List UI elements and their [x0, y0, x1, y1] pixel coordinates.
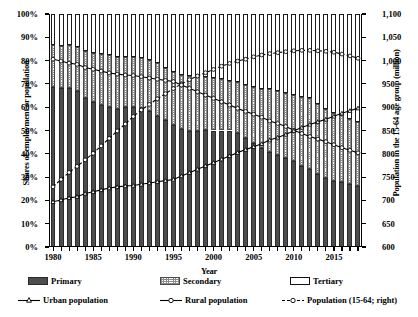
- x-tick-label: 2010: [285, 252, 302, 262]
- x-tick-label: 1980: [45, 252, 62, 262]
- legend-item-rural: Rural population: [160, 295, 248, 305]
- legend-item-primary: Primary: [28, 276, 82, 286]
- x-tick-mark: [229, 247, 230, 251]
- legend-label-secondary: Secondary: [183, 276, 221, 286]
- y-tick-mark-left: [45, 246, 49, 247]
- x-tick-mark: [269, 247, 270, 251]
- y-tick-mark-right: [362, 200, 366, 201]
- y-tick-label-right: 950: [382, 79, 395, 89]
- y-tick-mark-right: [362, 37, 366, 38]
- x-tick-mark: [341, 247, 342, 251]
- plot-frame: [49, 14, 362, 247]
- x-axis-title: Year: [0, 266, 418, 276]
- y-tick-label-left: 90%: [21, 32, 38, 42]
- x-tick-mark: [173, 247, 174, 251]
- y-tick-mark-left: [45, 177, 49, 178]
- x-tick-mark: [69, 247, 70, 251]
- y-tick-label-left: 0%: [25, 242, 38, 252]
- y-tick-label-right: 650: [382, 219, 395, 229]
- x-tick-mark: [61, 247, 62, 251]
- y-tick-mark-right: [362, 177, 366, 178]
- y-tick-label-right: 850: [382, 126, 395, 136]
- y-axis-tick-labels-left: 100%90%80%70%60%50%40%30%20%10%0%: [0, 0, 44, 317]
- y-tick-mark-right: [362, 107, 366, 108]
- y-tick-label-left: 70%: [21, 79, 38, 89]
- y-tick-label-left: 80%: [21, 56, 38, 66]
- y-tick-mark-left: [45, 153, 49, 154]
- x-tick-mark: [293, 247, 294, 251]
- plot-area: [49, 14, 362, 247]
- x-tick-mark: [85, 247, 86, 251]
- primary-swatch-icon: [28, 277, 48, 285]
- y-axis-tick-labels-right: 1,1001,0501,000950900850800750700650600: [374, 0, 418, 317]
- y-tick-label-left: 100%: [17, 9, 38, 19]
- tertiary-swatch-icon: [290, 277, 310, 285]
- x-tick-mark: [149, 247, 150, 251]
- population-line-icon: [282, 296, 304, 305]
- x-tick-label: 1990: [125, 252, 142, 262]
- x-tick-mark: [141, 247, 142, 251]
- rural-line-icon: [160, 296, 182, 305]
- x-tick-mark: [301, 247, 302, 251]
- y-tick-label-right: 1,000: [382, 56, 401, 66]
- x-tick-mark: [357, 247, 358, 251]
- y-tick-label-left: 40%: [21, 149, 38, 159]
- y-tick-mark-left: [45, 13, 49, 14]
- x-tick-mark: [77, 247, 78, 251]
- y-tick-mark-left: [45, 83, 49, 84]
- legend-item-urban: Urban population: [18, 295, 108, 305]
- x-tick-label: 2015: [325, 252, 342, 262]
- y-tick-mark-right: [362, 83, 366, 84]
- x-tick-label: 2005: [245, 252, 262, 262]
- legend-label-primary: Primary: [51, 276, 82, 286]
- x-tick-mark: [317, 247, 318, 251]
- x-tick-mark: [157, 247, 158, 251]
- y-tick-label-right: 1,100: [382, 9, 401, 19]
- y-tick-label-right: 600: [382, 242, 395, 252]
- x-tick-mark: [213, 247, 214, 251]
- y-tick-label-left: 20%: [21, 195, 38, 205]
- x-tick-mark: [325, 247, 326, 251]
- x-tick-mark: [133, 247, 134, 251]
- legend-label-urban: Urban population: [43, 295, 108, 305]
- x-tick-mark: [221, 247, 222, 251]
- y-tick-mark-right: [362, 223, 366, 224]
- x-tick-label: 1985: [85, 252, 102, 262]
- x-tick-mark: [93, 247, 94, 251]
- legend-row-lines: Urban population Rural population Popula…: [0, 295, 418, 312]
- y-tick-mark-right: [362, 130, 366, 131]
- legend-label-population: Population (15-64; right): [307, 295, 397, 305]
- x-tick-mark: [333, 247, 334, 251]
- y-tick-mark-left: [45, 37, 49, 38]
- x-tick-mark: [125, 247, 126, 251]
- legend-label-rural: Rural population: [185, 295, 248, 305]
- x-tick-label: 1995: [165, 252, 182, 262]
- x-tick-label: 2000: [205, 252, 222, 262]
- legend-item-population: Population (15-64; right): [282, 295, 397, 305]
- x-tick-mark: [101, 247, 102, 251]
- x-tick-mark: [181, 247, 182, 251]
- chart-figure: Shares of employment or population Popul…: [0, 0, 418, 317]
- x-tick-mark: [117, 247, 118, 251]
- x-tick-mark: [109, 247, 110, 251]
- x-tick-mark: [253, 247, 254, 251]
- y-tick-mark-left: [45, 107, 49, 108]
- x-tick-mark: [197, 247, 198, 251]
- chart-legend: Primary Secondary Tertiary Urban populat…: [0, 276, 418, 317]
- y-tick-label-right: 750: [382, 172, 395, 182]
- secondary-swatch-icon: [160, 277, 180, 285]
- y-tick-mark-left: [45, 130, 49, 131]
- x-tick-mark: [277, 247, 278, 251]
- legend-label-tertiary: Tertiary: [313, 276, 343, 286]
- y-tick-label-right: 1,050: [382, 32, 401, 42]
- y-tick-mark-right: [362, 60, 366, 61]
- y-tick-label-left: 50%: [21, 126, 38, 136]
- x-tick-mark: [205, 247, 206, 251]
- x-axis-tick-labels: 19801985199019952000200520102015: [0, 252, 418, 266]
- y-tick-label-right: 800: [382, 149, 395, 159]
- y-tick-mark-left: [45, 223, 49, 224]
- legend-item-secondary: Secondary: [160, 276, 221, 286]
- x-tick-mark: [285, 247, 286, 251]
- y-tick-mark-right: [362, 246, 366, 247]
- x-tick-mark: [309, 247, 310, 251]
